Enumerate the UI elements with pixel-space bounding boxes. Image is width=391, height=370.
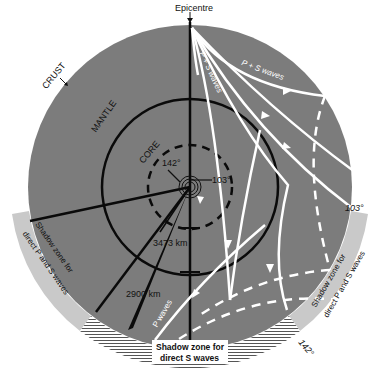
epicentre-arrow-head bbox=[187, 18, 193, 23]
earth-diagram: Epicentre CRUST MANTLE CORE 142° 103° 10… bbox=[0, 0, 391, 370]
epicentre-label: Epicentre bbox=[175, 3, 213, 13]
shadow-s-line2: direct S waves bbox=[160, 353, 219, 363]
core-radius-label: 3473 km bbox=[153, 238, 188, 248]
angle-103-inner: 103° bbox=[212, 175, 231, 185]
angle-142-inner: 142° bbox=[162, 158, 181, 168]
angle-142-outer: 142° bbox=[296, 337, 316, 358]
mantle-depth-label: 2900 km bbox=[126, 289, 161, 299]
shadow-s-line1: Shadow zone for bbox=[156, 342, 225, 352]
angle-103-outer: 103° bbox=[345, 203, 364, 213]
